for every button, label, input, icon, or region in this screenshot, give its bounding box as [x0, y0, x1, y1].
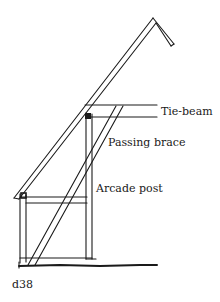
tie-beam — [85, 105, 157, 117]
post-joint-block — [85, 113, 91, 119]
rafter — [14, 18, 174, 199]
label-tie-beam: Tie-beam — [161, 106, 213, 117]
aisle-wall-post — [20, 193, 26, 263]
ground-line — [19, 262, 157, 268]
label-passing-brace: Passing brace — [108, 137, 185, 148]
aisle-tie — [20, 197, 87, 203]
figure-id-label: d38 — [12, 279, 33, 290]
arcade-post — [85, 113, 96, 259]
label-arcade-post: Arcade post — [96, 183, 163, 194]
frame-drawing — [0, 0, 220, 302]
